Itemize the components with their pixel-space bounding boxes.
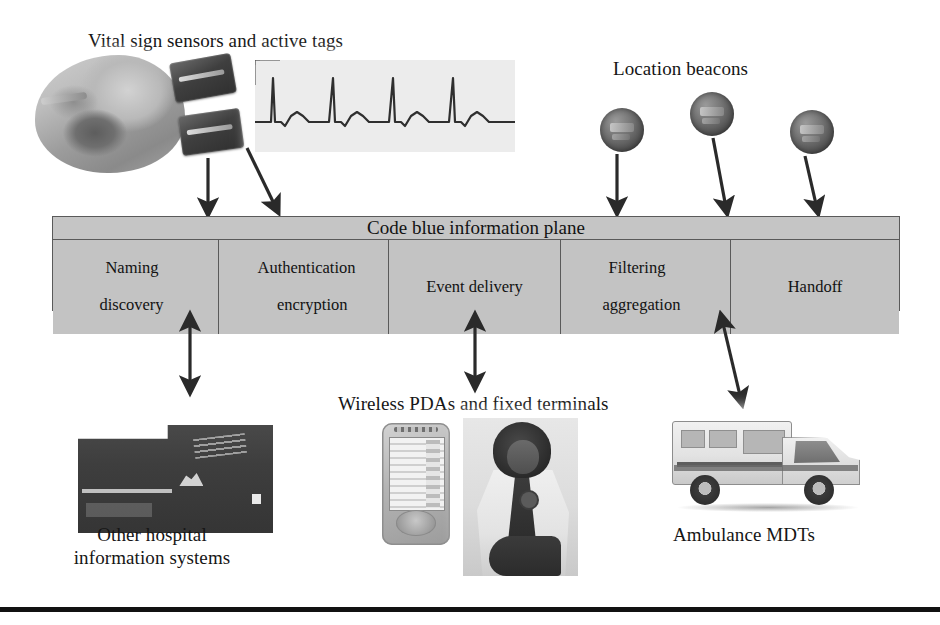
clinician-arm bbox=[489, 536, 561, 576]
page-bottom-rule bbox=[0, 607, 940, 612]
figure-canvas: Vital sign sensors and active tags Locat… bbox=[0, 0, 940, 625]
ambulance-panel bbox=[681, 430, 705, 448]
stethoscope-icon bbox=[521, 492, 537, 508]
hospital-logo-mark bbox=[179, 471, 203, 486]
caption-other-hospital-information-systems: Other hospital information systems bbox=[52, 523, 252, 569]
pda-screen bbox=[389, 437, 445, 511]
hospital-signage bbox=[193, 433, 247, 459]
ambulance-front-wheel bbox=[804, 475, 834, 505]
ambulance-panel bbox=[709, 430, 737, 448]
caption-wireless-pdas-and-fixed-terminals: Wireless PDAs and fixed terminals bbox=[338, 392, 609, 415]
ambulance-vehicle-photo bbox=[672, 415, 870, 515]
wireless-pda-device-photo bbox=[382, 423, 450, 545]
ambulance-panel bbox=[743, 430, 785, 454]
pda-keypad bbox=[396, 510, 436, 536]
clinician-with-stethoscope-photo bbox=[463, 418, 578, 576]
ambulance-patient-box bbox=[672, 421, 792, 485]
pda-speaker-grille bbox=[394, 427, 438, 432]
hospital-window bbox=[86, 503, 152, 517]
hospital-band bbox=[82, 489, 172, 493]
clinician-face bbox=[507, 440, 539, 474]
ambulance-rear-wheel bbox=[690, 475, 720, 505]
ambulance-ground-shadow bbox=[678, 503, 858, 512]
ambulance-stripe bbox=[674, 465, 858, 471]
hospital-window bbox=[252, 494, 262, 504]
caption-ambulance-mdts: Ambulance MDTs bbox=[673, 523, 815, 546]
